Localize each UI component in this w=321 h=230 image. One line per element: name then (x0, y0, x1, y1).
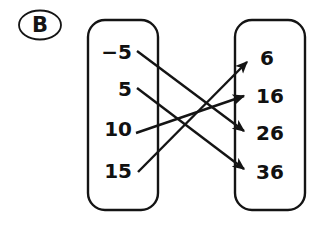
domain-value-1: −5 (78, 42, 132, 62)
domain-value-2: 5 (78, 79, 132, 99)
domain-value-3: 10 (78, 119, 132, 139)
range-value-1: 6 (260, 48, 316, 68)
range-value-3: 26 (256, 123, 312, 143)
range-value-2: 16 (256, 86, 312, 106)
part-label-letter: B (22, 11, 58, 39)
domain-value-4: 15 (78, 161, 132, 181)
diagram-labels: B −5 5 10 15 6 16 26 36 (0, 0, 321, 230)
range-value-4: 36 (256, 162, 312, 182)
mapping-diagram: B −5 5 10 15 6 16 26 36 (0, 0, 321, 230)
